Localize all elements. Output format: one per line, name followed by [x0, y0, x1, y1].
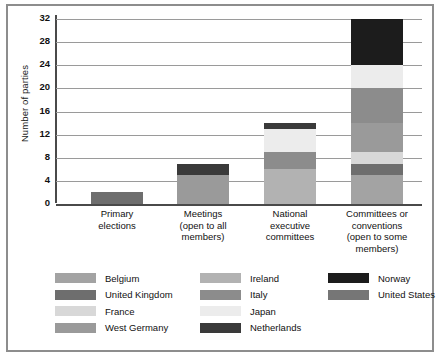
legend-swatch-icon — [55, 323, 96, 333]
legend-label: France — [105, 306, 135, 317]
legend-item-united-states[interactable]: United States — [328, 287, 435, 304]
bar-segment-norway[interactable] — [351, 19, 403, 65]
legend-swatch-icon — [200, 323, 241, 333]
legend-swatch-icon — [55, 273, 96, 283]
bar-1[interactable] — [91, 192, 143, 204]
x-axis-label-4: Committees orconventions(open to somemem… — [325, 208, 429, 254]
bar-segment-japan[interactable] — [351, 65, 403, 88]
legend-item-italy[interactable]: Italy — [200, 287, 301, 304]
bar-segment-italy[interactable] — [264, 152, 316, 169]
legend-column-3: NorwayUnited States — [328, 270, 435, 303]
y-tick-label-4: 4 — [24, 174, 50, 185]
legend-swatch-icon — [328, 273, 369, 283]
legend-swatch-icon — [55, 290, 96, 300]
legend-swatch-icon — [200, 273, 241, 283]
legend-label: West Germany — [105, 322, 168, 333]
y-tick-label-28: 28 — [24, 35, 50, 46]
bar-segment-belgium[interactable] — [351, 175, 403, 204]
legend-swatch-icon — [200, 306, 241, 316]
legend-label: Ireland — [250, 273, 279, 284]
legend-item-west-germany[interactable]: West Germany — [55, 320, 173, 337]
y-tick-label-24: 24 — [24, 58, 50, 69]
legend-label: Japan — [250, 306, 276, 317]
legend-item-netherlands[interactable]: Netherlands — [200, 320, 301, 337]
legend-item-united-kingdom[interactable]: United Kingdom — [55, 287, 173, 304]
legend-item-japan[interactable]: Japan — [200, 303, 301, 320]
bar-segment-france[interactable] — [351, 152, 403, 164]
gridline-0 — [56, 204, 422, 206]
chart-legend: BelgiumUnited KingdomFranceWest GermanyI… — [8, 270, 436, 350]
y-tick-label-32: 32 — [24, 12, 50, 23]
legend-item-belgium[interactable]: Belgium — [55, 270, 173, 287]
bar-segment-united-kingdom[interactable] — [91, 192, 143, 204]
legend-label: Italy — [250, 289, 267, 300]
legend-item-ireland[interactable]: Ireland — [200, 270, 301, 287]
bar-segment-west-germany[interactable] — [177, 175, 229, 204]
bar-segment-japan[interactable] — [264, 129, 316, 152]
legend-label: Norway — [378, 273, 410, 284]
legend-swatch-icon — [55, 306, 96, 316]
legend-label: United Kingdom — [105, 289, 173, 300]
legend-label: Netherlands — [250, 322, 301, 333]
bar-segment-italy[interactable] — [351, 88, 403, 123]
y-tick-label-20: 20 — [24, 81, 50, 92]
y-tick-label-8: 8 — [24, 151, 50, 162]
legend-item-norway[interactable]: Norway — [328, 270, 435, 287]
bar-segment-united-kingdom[interactable] — [351, 164, 403, 176]
y-tick-label-12: 12 — [24, 128, 50, 139]
legend-item-france[interactable]: France — [55, 303, 173, 320]
legend-label: United States — [378, 289, 435, 300]
legend-column-1: BelgiumUnited KingdomFranceWest Germany — [55, 270, 173, 336]
bar-2[interactable] — [177, 164, 229, 204]
y-tick-label-0: 0 — [24, 197, 50, 208]
legend-column-2: IrelandItalyJapanNetherlands — [200, 270, 301, 336]
legend-label: Belgium — [105, 273, 139, 284]
bar-segment-ireland[interactable] — [264, 169, 316, 204]
legend-swatch-icon — [328, 290, 369, 300]
bar-4[interactable] — [351, 19, 403, 204]
bar-3[interactable] — [264, 123, 316, 204]
y-tick-label-16: 16 — [24, 105, 50, 116]
bar-segment-netherlands[interactable] — [177, 164, 229, 176]
chart-figure: Number of parties 048121620242832 Primar… — [6, 4, 434, 352]
y-axis-line — [55, 15, 57, 203]
legend-swatch-icon — [200, 290, 241, 300]
plot-area: Number of parties 048121620242832 Primar… — [8, 6, 436, 268]
bar-segment-west-germany[interactable] — [351, 123, 403, 152]
